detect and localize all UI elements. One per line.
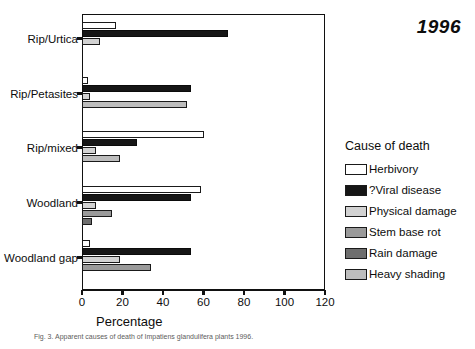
bar bbox=[82, 186, 201, 193]
x-axis-tick-label: 100 bbox=[275, 296, 294, 308]
bar-group bbox=[82, 131, 325, 179]
chart-container: 1996 Rip/UrticaRip/PetasitesRip/mixedWoo… bbox=[0, 0, 475, 349]
bar bbox=[82, 264, 151, 271]
legend-label: Physical damage bbox=[369, 205, 457, 217]
x-axis-tick-label: 120 bbox=[315, 296, 334, 308]
legend-entry: Rain damage bbox=[345, 245, 471, 261]
bar-group bbox=[82, 186, 325, 234]
bar bbox=[82, 38, 100, 45]
legend-label: Rain damage bbox=[369, 247, 437, 259]
legend-entry: Herbivory bbox=[345, 161, 471, 177]
category-label: Woodland bbox=[26, 197, 78, 209]
legend-swatch bbox=[345, 164, 367, 175]
x-axis-tick bbox=[162, 290, 165, 295]
x-axis-tick bbox=[324, 290, 327, 295]
bar bbox=[82, 30, 228, 37]
x-axis-title: Percentage bbox=[96, 314, 163, 329]
x-axis-tick bbox=[81, 290, 84, 295]
category-tick bbox=[77, 37, 83, 40]
category-tick bbox=[77, 201, 83, 204]
bar bbox=[82, 147, 96, 154]
bar bbox=[82, 248, 191, 255]
bar bbox=[82, 240, 90, 247]
bar bbox=[82, 22, 116, 29]
category-label: Rip/Urtica bbox=[28, 33, 78, 45]
legend-label: Heavy shading bbox=[369, 268, 445, 280]
chart-year-title: 1996 bbox=[417, 16, 461, 38]
x-axis-tick bbox=[121, 290, 124, 295]
legend-entries: Herbivory?Viral diseasePhysical damageSt… bbox=[345, 161, 471, 282]
legend-entry: Physical damage bbox=[345, 203, 471, 219]
bar bbox=[82, 93, 90, 100]
bar-group bbox=[82, 240, 325, 288]
legend-entry: Stem base rot bbox=[345, 224, 471, 240]
x-axis-tick-label: 40 bbox=[157, 296, 170, 308]
legend-swatch bbox=[345, 248, 367, 259]
legend-label: Stem base rot bbox=[369, 226, 441, 238]
legend-swatch bbox=[345, 185, 367, 196]
category-label: Rip/mixed bbox=[27, 142, 78, 154]
category-tick bbox=[77, 256, 83, 259]
x-axis-tick-label: 60 bbox=[197, 296, 210, 308]
x-axis-tick bbox=[283, 290, 286, 295]
legend: Cause of death Herbivory?Viral diseasePh… bbox=[345, 139, 471, 287]
legend-entry: ?Viral disease bbox=[345, 182, 471, 198]
x-axis-tick-label: 20 bbox=[116, 296, 129, 308]
category-label: Rip/Petasites bbox=[10, 88, 78, 100]
bar bbox=[82, 202, 96, 209]
x-axis-tick-label: 0 bbox=[79, 296, 85, 308]
category-label: Woodland gap bbox=[4, 252, 78, 264]
figure-caption: Fig. 3. Apparent causes of death of Impa… bbox=[34, 333, 253, 340]
category-tick bbox=[77, 92, 83, 95]
bar bbox=[82, 256, 120, 263]
legend-entry: Heavy shading bbox=[345, 266, 471, 282]
x-axis-tick bbox=[202, 290, 205, 295]
category-tick bbox=[77, 146, 83, 149]
bar bbox=[82, 210, 112, 217]
legend-label: Herbivory bbox=[369, 163, 418, 175]
bar bbox=[82, 194, 191, 201]
bar bbox=[82, 218, 92, 225]
x-axis-tick bbox=[243, 290, 246, 295]
bar-group bbox=[82, 77, 325, 125]
legend-swatch bbox=[345, 206, 367, 217]
legend-label: ?Viral disease bbox=[369, 184, 441, 196]
bar bbox=[82, 155, 120, 162]
bar bbox=[82, 139, 137, 146]
x-axis-tick-label: 80 bbox=[238, 296, 251, 308]
bar bbox=[82, 77, 88, 84]
bar bbox=[82, 85, 191, 92]
legend-swatch bbox=[345, 227, 367, 238]
legend-swatch bbox=[345, 269, 367, 280]
bar-group bbox=[82, 22, 325, 70]
bar bbox=[82, 101, 187, 108]
legend-title: Cause of death bbox=[345, 139, 471, 153]
bar bbox=[82, 131, 204, 138]
